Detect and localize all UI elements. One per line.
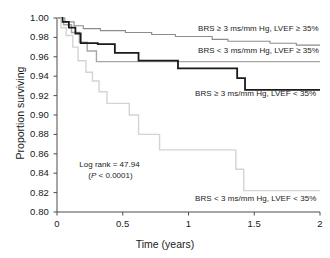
log-rank-value: Log rank = 47.94 bbox=[79, 159, 139, 170]
curve-label: BRS < 3 ms/mm Hg, LVEF ≥ 35% bbox=[198, 46, 319, 55]
x-tick-label: 0 bbox=[42, 218, 72, 229]
log-rank-annotation: Log rank = 47.94 (P < 0.0001) bbox=[79, 159, 139, 181]
x-tick-label: 2 bbox=[305, 218, 330, 229]
curve-label: BRS ≥ 3 ms/mm Hg, LVEF ≥ 35% bbox=[198, 24, 319, 33]
y-tick-label: 0.82 bbox=[15, 187, 49, 198]
x-axis-title: Time (years) bbox=[0, 238, 330, 250]
curve-label: BRS ≥ 3 ms/mm Hg, LVEF < 35% bbox=[195, 89, 316, 98]
p-value: (P < 0.0001) bbox=[79, 170, 139, 181]
x-tick-label: 1.5 bbox=[239, 218, 269, 229]
p-value-suffix: < 0.0001) bbox=[96, 171, 132, 180]
survival-chart-figure: 0.800.820.840.860.880.900.920.940.960.98… bbox=[0, 0, 330, 258]
curve-label: BRS < 3 ms/mm Hg, LVEF < 35% bbox=[195, 194, 316, 203]
x-tick-label: 1 bbox=[174, 218, 204, 229]
y-tick-label: 1.00 bbox=[15, 12, 49, 23]
y-tick-label: 0.80 bbox=[15, 206, 49, 217]
y-axis-title: Proportion surviving bbox=[14, 38, 26, 188]
x-tick-label: 0.5 bbox=[108, 218, 138, 229]
